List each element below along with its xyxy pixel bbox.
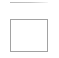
empty-box-content bbox=[11, 20, 47, 51]
empty-square-box[interactable] bbox=[10, 19, 48, 52]
screen-root bbox=[0, 0, 59, 58]
horizontal-divider bbox=[10, 2, 48, 3]
